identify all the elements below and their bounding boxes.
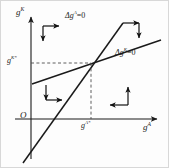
y-tick-label: gK* [7,57,17,65]
curve-delta-ga-zero [23,23,123,163]
diagram-canvas [1,1,169,168]
curve-delta-gk-zero [32,40,161,84]
x-tick-label: gA* [81,122,91,130]
x-axis-label: gA [143,123,151,132]
arrow-pair-top-left [43,26,59,41]
arrow-pair-top-right [123,23,139,38]
y-axis-label: gK [16,8,24,17]
curve-label-delta-gk-zero: ΔgK=0 [115,49,136,57]
curve-label-delta-ga-zero: ΔgA=0 [65,12,85,20]
phase-diagram-figure: gK gA O gK* gA* ΔgA=0 ΔgK=0 [0,0,169,168]
arrow-pair-bottom-left [46,85,62,100]
arrow-pair-bottom-right [110,87,128,105]
origin-label: O [20,111,27,120]
